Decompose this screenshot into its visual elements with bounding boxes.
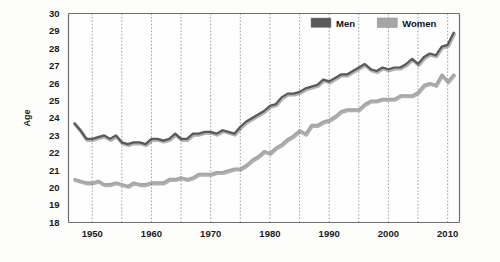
y-tick-label-24: 24	[49, 112, 60, 123]
y-tick-label-23: 23	[49, 130, 60, 141]
y-tick-label-20: 20	[49, 182, 60, 193]
y-axis-title: Age	[22, 109, 32, 126]
y-tick-label-25: 25	[49, 95, 60, 106]
x-tick-label-2000: 2000	[378, 228, 399, 239]
chart-figure: 18192021222324252627282930 1950196019701…	[0, 0, 500, 262]
x-tick-label-1960: 1960	[141, 228, 162, 239]
y-tick-label-21: 21	[49, 165, 60, 176]
y-tick-label-28: 28	[49, 43, 60, 54]
x-tick-label-1970: 1970	[200, 228, 221, 239]
y-tick-label-26: 26	[49, 78, 60, 89]
x-tick-label-1980: 1980	[259, 228, 280, 239]
y-tick-label-27: 27	[49, 60, 60, 71]
y-tick-label-30: 30	[49, 8, 60, 19]
y-tick-label-22: 22	[49, 147, 60, 158]
y-tick-label-18: 18	[49, 217, 60, 228]
x-tick-label-2010: 2010	[437, 228, 458, 239]
legend-swatch-men	[311, 18, 331, 28]
line-chart: 18192021222324252627282930 1950196019701…	[0, 0, 500, 262]
plot-area-background	[69, 14, 460, 223]
legend-label-women: Women	[402, 18, 436, 29]
x-tick-label-1950: 1950	[82, 228, 103, 239]
y-tick-label-19: 19	[49, 199, 60, 210]
x-tick-label-1990: 1990	[319, 228, 340, 239]
legend-label-men: Men	[336, 18, 355, 29]
y-tick-label-29: 29	[49, 25, 60, 36]
legend-swatch-women	[377, 18, 397, 28]
